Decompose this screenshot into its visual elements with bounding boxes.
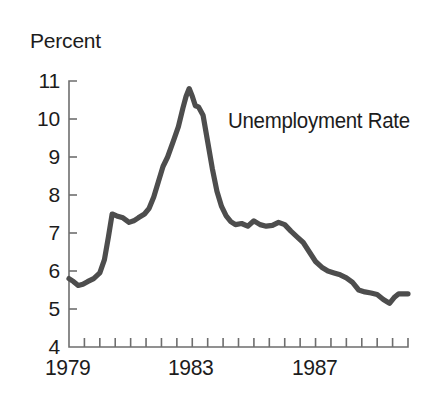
chart-plot-area: [0, 0, 442, 394]
unemployment-rate-line: [69, 89, 408, 304]
x-axis-ticks: [84, 338, 392, 347]
axis-lines: [69, 81, 408, 347]
axis-frame: [69, 81, 408, 347]
unemployment-rate-chart: Percent Unemployment Rate 1110987654 197…: [0, 0, 442, 394]
